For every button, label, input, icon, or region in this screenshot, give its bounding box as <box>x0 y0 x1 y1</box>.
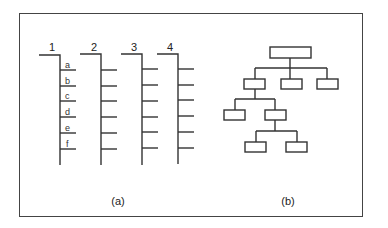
tree-node-l1-c <box>317 79 338 89</box>
column-label-2: 2 <box>91 41 97 53</box>
tree-node-l3-b <box>286 142 307 152</box>
tree-node-l2-a <box>224 110 245 120</box>
ladder-column-1 <box>39 55 76 165</box>
rung-label-c: c <box>65 91 70 101</box>
rung-label-f: f <box>66 139 69 149</box>
ladder-column-4 <box>157 54 194 164</box>
rung-label-a: a <box>65 60 70 70</box>
rung-label-b: b <box>65 76 70 86</box>
tree-node-l3-a <box>245 142 266 152</box>
diagram-canvas <box>0 0 388 228</box>
rung-label-d: d <box>65 107 70 117</box>
ladder-column-3 <box>121 54 158 165</box>
column-label-1: 1 <box>49 41 55 53</box>
tree-node-l2-b <box>265 110 286 120</box>
tree-diagram <box>224 47 338 152</box>
column-label-3: 3 <box>131 41 137 53</box>
caption-a: (a) <box>111 195 124 207</box>
tree-node-root <box>270 47 311 58</box>
tree-node-l1-b <box>281 79 302 89</box>
ladder-column-2 <box>80 54 117 165</box>
caption-b: (b) <box>281 195 294 207</box>
rung-label-e: e <box>65 123 70 133</box>
tree-node-l1-a <box>244 79 265 89</box>
column-label-4: 4 <box>167 41 173 53</box>
